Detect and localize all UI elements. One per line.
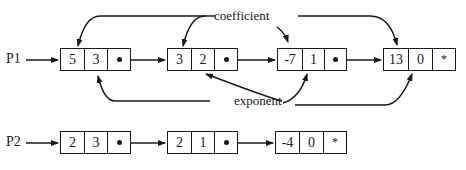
link-cell [325,49,346,70]
link-cell [215,132,237,153]
exponent-cell: 0 [300,132,324,153]
coefficient-cell: 2 [168,132,192,153]
pointer-dot-icon [117,140,122,145]
coefficient-cell: 5 [61,49,85,70]
p1-node-1: 5 3 [60,48,131,71]
coefficient-arrow-3 [277,27,288,42]
coefficient-cell: -4 [276,132,300,153]
p2-node-2: 2 1 [167,131,238,154]
null-link-icon: * [324,132,346,153]
exponent-cell: 3 [85,132,108,153]
p2-node-1: 2 3 [60,131,131,154]
exponent-cell: 1 [192,132,215,153]
pointer-dot-icon [117,57,122,62]
link-cell [108,132,130,153]
coefficient-cell: 2 [61,132,85,153]
coefficient-cell: -7 [278,49,303,70]
exponent-cell: 3 [85,49,108,70]
pointer-dot-icon [224,140,229,145]
null-link-icon: * [433,49,455,70]
exponent-arrow-1 [98,76,210,101]
p1-node-2: 3 2 [167,48,238,71]
pointer-dot-icon [224,57,229,62]
coefficient-cell: 13 [384,49,409,70]
list-pointer-p2: P2 [6,135,21,149]
list-pointer-p1: P1 [6,52,21,66]
exponent-label: exponent [234,94,282,108]
p1-node-3: -7 1 [277,48,347,71]
p2-node-3: -4 0 * [275,131,347,154]
coefficient-cell: 3 [168,49,192,70]
exponent-cell: 0 [409,49,433,70]
link-cell [108,49,130,70]
exponent-cell: 2 [192,49,215,70]
exponent-arrow-3 [283,74,307,103]
exponent-arrow-4 [295,74,412,105]
p1-node-4: 13 0 * [383,48,456,71]
coefficient-arrow-4 [298,16,397,45]
pointer-dot-icon [333,57,338,62]
exponent-cell: 1 [303,49,325,70]
link-cell [215,49,237,70]
coefficient-label: coefficient [214,9,269,23]
